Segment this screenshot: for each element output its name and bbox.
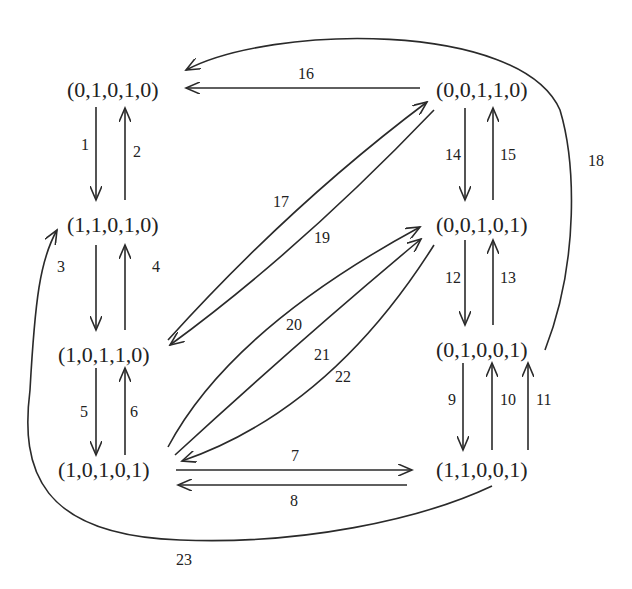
node-01001: (0,1,0,0,1) [436,337,528,362]
edge-label-20: 20 [286,316,302,333]
node-00101: (0,0,1,0,1) [436,212,528,237]
edge-label-4: 4 [152,258,160,275]
edge-label-19: 19 [314,229,330,246]
edge-22 [182,245,434,461]
edge-label-15: 15 [500,146,516,163]
edge-label-11: 11 [536,391,551,408]
edge-23 [28,230,492,541]
edge-label-5: 5 [80,403,88,420]
node-01010: (0,1,0,1,0) [67,77,159,102]
edge-19 [170,110,434,345]
edge-label-17: 17 [273,193,289,210]
node-11001: (1,1,0,0,1) [436,457,528,482]
edge-label-16: 16 [298,65,314,82]
edge-label-23: 23 [176,551,192,568]
edge-label-21: 21 [314,346,330,363]
edge-label-2: 2 [133,143,141,160]
edge-label-1: 1 [81,136,89,153]
edge-label-3: 3 [57,258,65,275]
state-transition-diagram: (0,1,0,1,0) (1,1,0,1,0) (1,0,1,1,0) (1,0… [0,0,632,589]
edge-label-7: 7 [291,447,299,464]
node-11010: (1,1,0,1,0) [67,212,159,237]
edge-21 [175,239,421,455]
edge-label-9: 9 [448,391,456,408]
edge-20 [168,227,420,447]
edge-label-22: 22 [335,368,351,385]
edge-label-13: 13 [500,269,516,286]
edge-label-14: 14 [445,146,461,163]
node-10110: (1,0,1,1,0) [58,342,150,367]
node-10101: (1,0,1,0,1) [58,457,150,482]
edge-label-12: 12 [445,269,461,286]
edge-label-6: 6 [130,403,138,420]
edge-label-10: 10 [500,391,516,408]
node-00110: (0,0,1,1,0) [436,77,528,102]
edge-label-18: 18 [588,152,604,169]
edge-label-8: 8 [290,492,298,509]
